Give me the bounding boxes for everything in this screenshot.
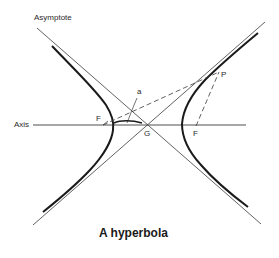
dashed-line-right-focus-to-p bbox=[196, 72, 219, 126]
focus-right-label: F bbox=[193, 130, 198, 138]
asymptote-label: Asymptote bbox=[34, 14, 72, 22]
hyperbola-left-branch bbox=[43, 46, 113, 212]
small-arc bbox=[114, 121, 142, 123]
point-a-label: a bbox=[137, 88, 141, 96]
diagram-title: A hyperbola bbox=[99, 226, 168, 240]
focus-left-label: F bbox=[96, 115, 101, 123]
dashed-line-left-focus-to-p bbox=[103, 72, 219, 125]
asymptote-line-1 bbox=[37, 28, 261, 224]
point-a-leader bbox=[132, 98, 137, 110]
center-g-label: G bbox=[144, 130, 150, 138]
point-p-label: P bbox=[221, 71, 226, 79]
axis-label: Axis bbox=[14, 121, 29, 129]
hyperbola-right-branch bbox=[182, 33, 258, 207]
hyperbola-diagram bbox=[0, 0, 279, 258]
asymptote-line-2 bbox=[33, 22, 265, 225]
